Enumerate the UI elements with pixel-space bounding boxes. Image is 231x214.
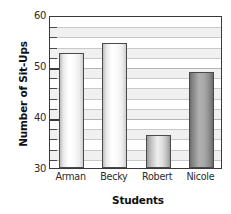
y-axis-tick-label: 50 (18, 61, 46, 72)
x-axis-tick-label: Becky (92, 171, 135, 182)
bar-series (50, 17, 221, 168)
x-axis-tick-label: Arman (49, 171, 92, 182)
plot-area (49, 16, 222, 169)
y-axis-tick-label: 30 (18, 163, 46, 174)
y-axis-tick-label: 40 (18, 112, 46, 123)
x-axis-title: Students (48, 194, 228, 206)
bar-becky (102, 43, 127, 168)
y-axis-tick-label: 60 (18, 10, 46, 21)
bar-nicole (189, 72, 214, 168)
x-axis-tick-label: Robert (136, 171, 179, 182)
x-axis-tick-label: Nicole (179, 171, 222, 182)
bar-robert (146, 135, 171, 168)
bar-arman (59, 53, 84, 168)
y-axis-tick-labels: 30405060 (16, 16, 46, 169)
sit-ups-bar-chart: Number of Sit-Ups 30405060 ArmanBeckyRob… (0, 0, 231, 214)
x-axis-tick-labels: ArmanBeckyRobertNicole (49, 171, 222, 187)
